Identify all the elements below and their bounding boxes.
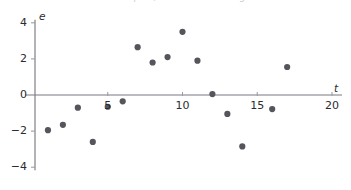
y-tick-label: 4 <box>5 17 27 28</box>
data-point <box>224 111 230 117</box>
y-tick-label: −4 <box>5 161 27 172</box>
data-point <box>75 105 81 111</box>
x-tick-label: 5 <box>96 100 120 111</box>
x-tick-label: 10 <box>171 100 195 111</box>
y-axis-title: e <box>39 11 45 22</box>
plot-axes <box>25 20 342 170</box>
data-point <box>209 91 215 97</box>
scatter-plot-canvas <box>0 0 351 190</box>
x-axis-title: t <box>334 83 338 94</box>
residual-scatter-figure: residual plot, cut off above figure −4−2… <box>0 0 351 190</box>
data-point <box>45 127 51 133</box>
data-point <box>164 54 170 60</box>
data-point <box>284 64 290 70</box>
y-tick-label: −2 <box>5 125 27 136</box>
x-tick-label: 20 <box>320 100 344 111</box>
x-tick-label: 15 <box>245 100 269 111</box>
data-point <box>239 143 245 149</box>
y-tick-label: 2 <box>5 53 27 64</box>
data-point <box>194 58 200 64</box>
data-points-group <box>45 29 290 150</box>
data-point <box>150 59 156 65</box>
data-point <box>269 106 275 112</box>
data-point <box>135 44 141 50</box>
data-point <box>179 29 185 35</box>
y-tick-label: 0 <box>5 89 27 100</box>
data-point <box>120 98 126 104</box>
data-point <box>90 139 96 145</box>
data-point <box>60 122 66 128</box>
